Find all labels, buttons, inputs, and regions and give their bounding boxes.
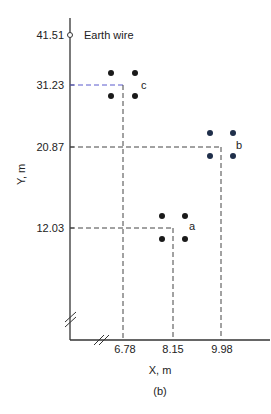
guide-a <box>70 228 173 340</box>
y-tick-41-51: 41.51 <box>4 30 64 41</box>
y-tick-31-23: 31.23 <box>4 80 64 91</box>
conductor-bundle-b <box>207 130 236 159</box>
guide-c <box>70 85 123 340</box>
earth-wire-label: Earth wire <box>84 30 134 41</box>
conductor-label-b: b <box>236 140 242 151</box>
y-axis-label: Y, m <box>16 164 27 185</box>
conductor-label-a: a <box>189 221 195 232</box>
guide-b <box>70 147 221 340</box>
conductor-label-c: c <box>141 80 147 91</box>
x-tick-8-15: 8.15 <box>162 344 183 355</box>
x-tick-6-78: 6.78 <box>114 344 135 355</box>
x-tick-9-98: 9.98 <box>211 344 232 355</box>
y-tick-12-03: 12.03 <box>4 223 64 234</box>
x-axis-label: X, m <box>149 365 172 376</box>
figure-caption: (b) <box>153 386 166 397</box>
earth-wire-marker <box>68 33 73 38</box>
y-tick-20-87: 20.87 <box>4 142 64 153</box>
